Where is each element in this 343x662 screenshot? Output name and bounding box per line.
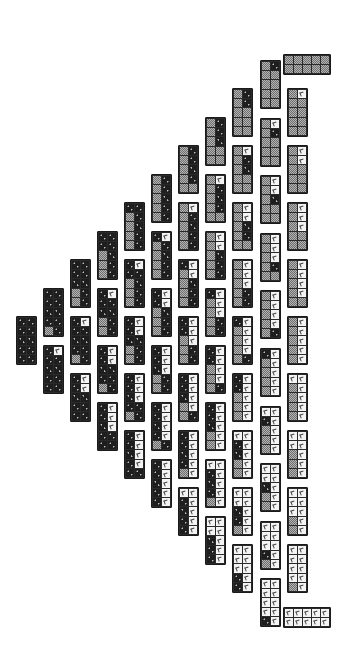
cell-white-marked <box>303 618 311 626</box>
cell-gray-checkered <box>153 185 161 193</box>
cell-dark-dotted <box>108 233 116 241</box>
cell-dark-dotted <box>45 308 53 316</box>
cell-white-marked <box>289 489 297 497</box>
cell-dark-dotted <box>81 289 89 297</box>
cell-gray-checkered <box>243 108 251 116</box>
cell-gray-checkered <box>207 119 215 127</box>
cell-gray-checkered <box>72 289 80 297</box>
cell-white-marked <box>312 609 320 617</box>
cell-dark-dotted <box>243 90 251 98</box>
cell-gray-checkered <box>262 99 270 107</box>
cell-white-marked <box>216 441 224 449</box>
cell-dark-dotted <box>162 176 170 184</box>
cell-gray-checkered <box>289 156 297 164</box>
cell-gray-checkered <box>271 157 279 165</box>
cell-white-marked <box>216 546 224 554</box>
block-col5-row4 <box>151 402 172 451</box>
cell-dark-dotted <box>262 483 270 491</box>
cell-white-marked <box>271 417 279 425</box>
cell-gray-checkered <box>99 261 107 269</box>
cell-dark-dotted <box>126 469 134 477</box>
cell-gray-checkered <box>234 232 242 240</box>
cell-dark-dotted <box>18 336 26 344</box>
cell-white-marked <box>207 527 215 535</box>
cell-gray-checkered <box>289 318 297 326</box>
cell-dark-dotted <box>162 308 170 316</box>
cell-white-marked <box>243 336 251 344</box>
cell-dark-dotted <box>126 384 134 392</box>
cell-gray-checkered <box>262 186 270 194</box>
cell-white-marked <box>243 507 251 515</box>
cell-white-marked <box>289 564 297 572</box>
cell-gray-checkered <box>207 137 215 145</box>
cell-dark-dotted <box>189 279 197 287</box>
cell-gray-checkered <box>289 127 297 135</box>
cell-gray-checkered <box>262 195 270 203</box>
cell-dark-dotted <box>72 384 80 392</box>
cell-dark-dotted <box>135 204 143 212</box>
cell-white-marked <box>303 609 311 617</box>
cell-white-marked <box>289 432 297 440</box>
cell-white-marked <box>189 450 197 458</box>
cell-dark-dotted <box>162 204 170 212</box>
cell-dark-dotted <box>81 346 89 354</box>
cell-dark-dotted <box>189 213 197 221</box>
cell-white-marked <box>271 235 279 243</box>
cell-gray-checkered <box>234 165 242 173</box>
block-col2-row1 <box>70 316 91 365</box>
cell-white-marked <box>289 507 297 515</box>
cell-gray-checkered <box>262 205 270 213</box>
cell-white-marked <box>216 489 224 497</box>
cell-dark-dotted <box>216 251 224 259</box>
cell-white-marked <box>162 489 170 497</box>
cell-gray-checkered <box>262 62 270 70</box>
triangular-block-diagram <box>0 0 343 662</box>
block-col6-row0 <box>178 145 199 194</box>
cell-dark-dotted <box>81 412 89 420</box>
block-col9-row6 <box>260 406 281 455</box>
cell-gray-checkered <box>126 241 134 249</box>
cell-gray-checkered <box>298 184 306 192</box>
cell-gray-checkered <box>298 241 306 249</box>
cell-white-marked <box>243 270 251 278</box>
cell-dark-dotted <box>234 507 242 515</box>
cell-white-marked <box>298 517 306 525</box>
cell-dark-dotted <box>135 336 143 344</box>
block-col1-row0 <box>43 288 64 337</box>
cell-gray-checkered <box>153 213 161 221</box>
cell-gray-checkered <box>294 56 302 64</box>
cell-gray-checkered <box>262 120 270 128</box>
cell-dark-dotted <box>234 583 242 591</box>
cell-white-marked <box>234 432 242 440</box>
cell-dark-dotted <box>27 336 35 344</box>
cell-gray-checkered <box>234 298 242 306</box>
cell-white-marked <box>298 546 306 554</box>
cell-white-marked <box>216 365 224 373</box>
cell-white-marked <box>216 555 224 563</box>
cell-gray-checkered <box>180 232 188 240</box>
cell-white-marked <box>243 393 251 401</box>
cell-white-marked <box>243 346 251 354</box>
cell-white-marked <box>271 474 279 482</box>
cell-dark-dotted <box>243 165 251 173</box>
cell-gray-checkered <box>289 270 297 278</box>
cell-dark-dotted <box>99 290 107 298</box>
cell-white-marked <box>298 412 306 420</box>
cell-gray-checkered <box>289 108 297 116</box>
cell-white-marked <box>216 308 224 316</box>
cell-dark-dotted <box>162 185 170 193</box>
block-col4-row1 <box>124 259 145 308</box>
cell-white-marked <box>162 290 170 298</box>
cell-dark-dotted <box>81 279 89 287</box>
cell-gray-checkered <box>207 128 215 136</box>
cell-white-marked <box>216 461 224 469</box>
cell-gray-checkered <box>262 90 270 98</box>
cell-gray-checkered <box>289 90 297 98</box>
cell-gray-checkered <box>289 165 297 173</box>
block-col9-row3 <box>260 233 281 282</box>
cell-white-marked <box>298 450 306 458</box>
cell-gray-checkered <box>234 90 242 98</box>
cell-dark-dotted <box>135 289 143 297</box>
cell-dark-dotted <box>189 355 197 363</box>
cell-dark-dotted <box>135 298 143 306</box>
